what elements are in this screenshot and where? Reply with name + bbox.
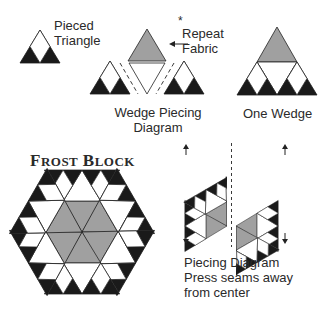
title-cap: B — [83, 151, 95, 170]
arrow-down-right-icon — [282, 233, 288, 244]
wedge-piecing-label: Wedge Piecing Diagram — [103, 105, 213, 135]
label-line: Diagram — [103, 120, 213, 135]
frost-block-title: FROST BLOCK — [30, 151, 135, 171]
label-line: Fabric — [182, 41, 224, 56]
piecing-diagram-label: Piecing Diagram Press seams away from ce… — [184, 255, 293, 300]
arrow-up-right-icon — [282, 144, 288, 155]
pieced-triangle-label: Pieced Triangle — [54, 18, 100, 48]
title-small: LOCK — [95, 154, 135, 169]
title-cap: F — [30, 151, 41, 170]
label-line: Piecing Diagram — [184, 255, 293, 270]
label-line: from center — [184, 285, 293, 300]
label-line: Triangle — [54, 33, 100, 48]
arrow-up-left-icon — [183, 144, 189, 155]
title-small: ROST — [41, 154, 78, 169]
one-wedge-figure — [237, 27, 317, 95]
label-line: Wedge Piecing — [103, 105, 213, 120]
repeat-fabric-label: Repeat Fabric — [182, 26, 224, 56]
label-line: Repeat — [182, 26, 224, 41]
frost-block-figure — [10, 168, 155, 295]
one-wedge-label: One Wedge — [243, 106, 312, 121]
label-line: Pieced — [54, 18, 100, 33]
label-line: Press seams away — [184, 270, 293, 285]
